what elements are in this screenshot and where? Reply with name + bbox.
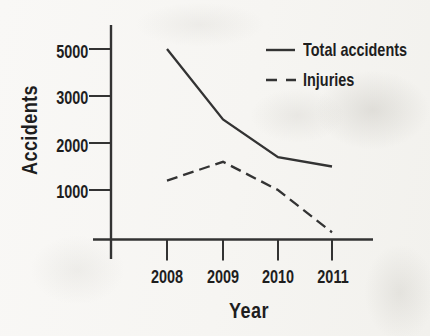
x-tick-label-2008: 2008 xyxy=(151,267,183,286)
x-tick-label-2011: 2011 xyxy=(317,267,348,286)
series-line-injuries xyxy=(167,162,332,233)
accidents-line-chart: 5000 3000 2000 1000 2008 2009 2010 2011 … xyxy=(0,0,430,336)
x-axis-title: Year xyxy=(229,300,269,322)
x-tick-label-2009: 2009 xyxy=(207,267,239,286)
series-line-total-accidents xyxy=(167,49,332,167)
y-tick-label-5000: 5000 xyxy=(56,42,88,61)
legend-label-total-accidents: Total accidents xyxy=(303,40,407,59)
x-tick-label-2010: 2010 xyxy=(262,267,294,286)
legend-label-injuries: Injuries xyxy=(303,70,354,89)
y-tick-label-3000: 3000 xyxy=(56,88,88,107)
y-tick-label-1000: 1000 xyxy=(56,182,88,201)
legend-item-total-accidents: Total accidents xyxy=(265,40,430,59)
legend-swatch-solid-line-icon xyxy=(265,47,296,53)
legend-swatch-dashed-line-icon xyxy=(265,77,296,83)
y-axis-title: Accidents xyxy=(19,85,41,175)
legend-item-injuries: Injuries xyxy=(265,70,371,89)
y-tick-label-2000: 2000 xyxy=(56,136,88,155)
